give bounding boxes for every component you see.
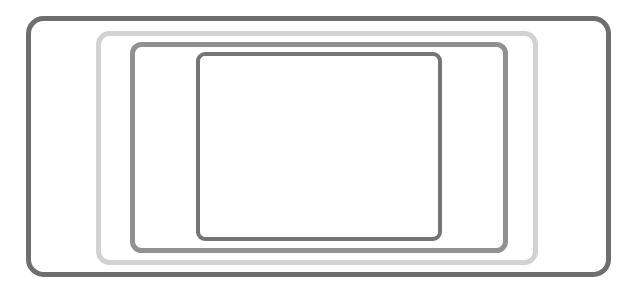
nested-rectangles-figure: [0, 0, 637, 293]
drawing-canvas: [0, 0, 637, 293]
